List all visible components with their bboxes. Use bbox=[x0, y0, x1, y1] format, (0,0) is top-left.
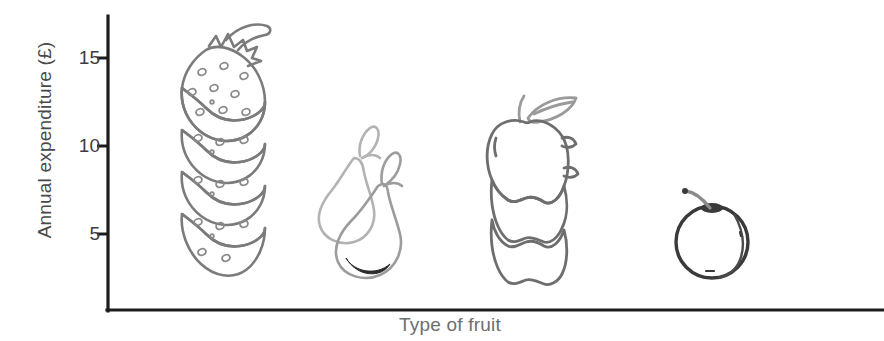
apple-bar bbox=[480, 92, 586, 288]
pictograph-chart: 15 10 5 Annual expenditure (£) Type of f… bbox=[0, 0, 884, 341]
cherry-bar bbox=[668, 186, 754, 286]
pear-bar bbox=[310, 122, 410, 292]
apple-stem-leaf-icon bbox=[519, 96, 576, 122]
cherry-stem-icon bbox=[686, 191, 710, 208]
pear-symbol bbox=[319, 127, 380, 243]
cherry-dimple bbox=[701, 203, 723, 213]
strawberry-bar bbox=[168, 14, 276, 286]
cherry-symbol bbox=[676, 188, 748, 278]
strawberry-symbol bbox=[182, 88, 265, 141]
apple-symbol bbox=[491, 180, 567, 242]
apple-symbol bbox=[491, 220, 567, 285]
pear-shadow bbox=[346, 258, 390, 274]
pictograph-bars bbox=[0, 0, 884, 341]
strawberry-stem-icon bbox=[209, 25, 270, 66]
